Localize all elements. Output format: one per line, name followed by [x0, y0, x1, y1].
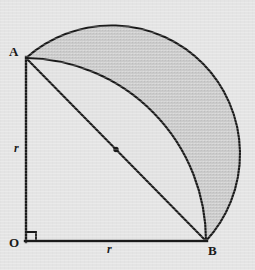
length-label-ob: r: [107, 243, 112, 255]
geometry-canvas: [0, 0, 255, 270]
vertex-label-b: B: [208, 244, 217, 257]
vertex-label-o: O: [9, 236, 19, 249]
vertex-label-a: A: [9, 45, 18, 58]
right-angle-icon: [26, 232, 36, 241]
length-label-oa: r: [14, 142, 19, 154]
geometry-figure: A O B r r: [0, 0, 255, 270]
midpoint-dot-icon: [113, 147, 118, 152]
